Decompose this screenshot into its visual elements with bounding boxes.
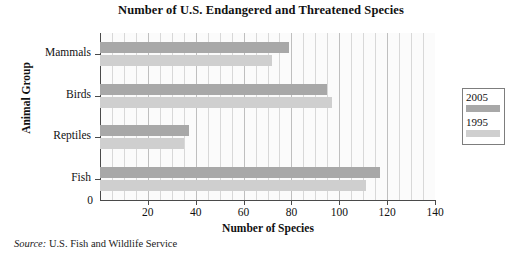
- x-tick-mark: [435, 200, 436, 205]
- chart-figure: Number of U.S. Endangered and Threatened…: [0, 0, 522, 256]
- bar-birds-2005: [100, 84, 327, 95]
- legend-entry-1995[interactable]: 1995: [463, 116, 504, 141]
- bar-mammals-2005: [100, 42, 289, 53]
- legend-label-2005: 2005: [466, 91, 504, 104]
- x-axis-line: [100, 200, 436, 201]
- x-tick-mark: [339, 200, 340, 205]
- y-tick-label-mammals: Mammals: [0, 46, 91, 58]
- bar-reptiles-1995: [100, 138, 184, 149]
- legend-swatch-1995: [466, 130, 500, 137]
- y-tick-mark: [95, 179, 100, 180]
- x-tick-mark: [196, 200, 197, 205]
- y-tick-label-fish: Fish: [0, 171, 91, 183]
- source-text: U.S. Fish and Wildlife Service: [49, 238, 177, 249]
- chart-legend[interactable]: 20051995: [462, 88, 505, 145]
- y-tick-mark: [95, 96, 100, 97]
- x-tick-mark: [244, 200, 245, 205]
- legend-swatch-2005: [466, 105, 500, 112]
- bar-fish-2005: [100, 167, 380, 178]
- source-prefix: Source:: [14, 238, 46, 249]
- gridline-minor: [411, 33, 412, 200]
- legend-entry-2005[interactable]: 2005: [463, 91, 504, 116]
- legend-label-1995: 1995: [466, 116, 504, 129]
- y-tick-label-birds: Birds: [0, 88, 91, 100]
- x-tick-mark: [387, 200, 388, 205]
- y-tick-label-reptiles: Reptiles: [0, 129, 91, 141]
- gridline-minor: [399, 33, 400, 200]
- chart-title: Number of U.S. Endangered and Threatened…: [0, 3, 522, 18]
- y-axis-zero-label: 0: [0, 194, 93, 206]
- x-tick-label-80: 80: [271, 206, 311, 218]
- x-tick-label-60: 60: [224, 206, 264, 218]
- bar-birds-1995: [100, 97, 332, 108]
- x-tick-label-40: 40: [176, 206, 216, 218]
- bar-mammals-1995: [100, 55, 272, 66]
- gridline-minor: [423, 33, 424, 200]
- x-axis-title: Number of Species: [100, 222, 436, 234]
- x-tick-label-20: 20: [128, 206, 168, 218]
- y-tick-mark: [95, 137, 100, 138]
- x-tick-label-120: 120: [367, 206, 407, 218]
- x-tick-label-100: 100: [319, 206, 359, 218]
- y-axis-title: Animal Group: [20, 43, 32, 153]
- x-tick-label-140: 140: [415, 206, 455, 218]
- bar-fish-1995: [100, 180, 366, 191]
- bar-reptiles-2005: [100, 125, 189, 136]
- gridline-major: [387, 33, 388, 200]
- x-tick-mark: [148, 200, 149, 205]
- x-tick-mark: [291, 200, 292, 205]
- y-tick-mark: [95, 54, 100, 55]
- source-note: Source: U.S. Fish and Wildlife Service: [14, 238, 177, 249]
